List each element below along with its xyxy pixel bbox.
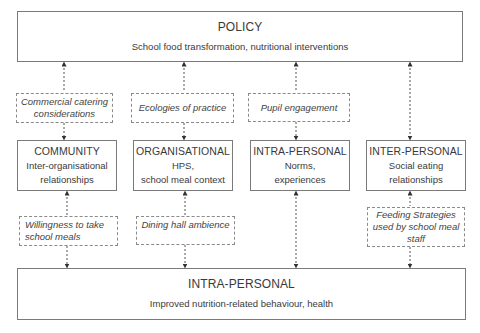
mediator-feeding-strategies: Feeding Strategies used by school meal s… [367, 207, 465, 247]
level-line: Norms, [285, 159, 316, 173]
level-intra-personal-box: INTRA-PERSONAL Norms, experiences [250, 140, 350, 191]
policy-box: POLICY School food transformation, nutri… [17, 11, 463, 62]
level-line: school meal context [141, 173, 225, 187]
level-line: Inter-organisational [26, 159, 107, 173]
level-title: INTRA-PERSONAL [253, 145, 347, 157]
mediator-commercial-catering: Commercial catering considerations [16, 93, 113, 123]
level-line: relationships [40, 173, 93, 187]
level-title: INTER-PERSONAL [369, 145, 463, 157]
outcome-subtitle: Improved nutrition-related behaviour, he… [150, 297, 333, 311]
level-line: Social eating [389, 159, 443, 173]
mediator-dining-hall-ambience: Dining hall ambience [136, 216, 235, 245]
mediator-text: Willingness to take school meals [25, 219, 114, 243]
level-title: ORGANISATIONAL [136, 145, 230, 157]
policy-title: POLICY [218, 20, 263, 34]
mediator-pupil-engagement: Pupil engagement [248, 93, 350, 122]
policy-subtitle: School food transformation, nutritional … [132, 40, 349, 54]
level-line: HPS, [172, 159, 194, 173]
mediator-text: Dining hall ambience [141, 219, 229, 231]
level-title: COMMUNITY [34, 145, 100, 157]
level-line: relationships [389, 173, 442, 187]
outcome-title: INTRA-PERSONAL [188, 277, 295, 291]
mediator-text: Feeding Strategies used by school meal s… [371, 209, 461, 245]
level-community-box: COMMUNITY Inter-organisational relations… [17, 140, 117, 191]
mediator-willingness-school-meals: Willingness to take school meals [19, 216, 118, 246]
mediator-text: Ecologies of practice [139, 102, 227, 114]
mediator-text: Pupil engagement [261, 102, 338, 114]
mediator-ecologies-of-practice: Ecologies of practice [131, 93, 234, 123]
mediator-text: Commercial catering considerations [20, 96, 109, 120]
level-line: experiences [274, 173, 325, 187]
level-organisational-box: ORGANISATIONAL HPS, school meal context [133, 140, 233, 191]
outcome-box: INTRA-PERSONAL Improved nutrition-relate… [17, 268, 466, 320]
level-inter-personal-box: INTER-PERSONAL Social eating relationshi… [366, 140, 466, 191]
